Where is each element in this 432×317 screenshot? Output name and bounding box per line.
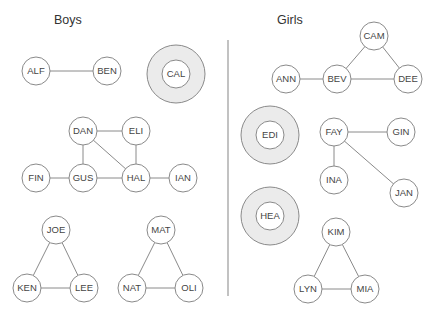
edges-layer	[27, 36, 408, 289]
node-label: FIN	[28, 172, 43, 183]
node-label: INA	[326, 174, 343, 185]
node-label: IAN	[175, 172, 191, 183]
node-label: CAM	[363, 30, 384, 41]
node-mat: MAT	[147, 216, 175, 244]
node-fay: FAY	[320, 118, 348, 146]
node-gin: GIN	[387, 118, 415, 146]
node-label: CAL	[167, 68, 185, 79]
node-label: DEE	[398, 73, 418, 84]
node-ina: INA	[320, 166, 348, 194]
node-label: LYN	[299, 283, 317, 294]
node-edi: EDI	[241, 106, 299, 164]
node-label: MAT	[151, 224, 171, 235]
node-label: MIA	[357, 283, 375, 294]
node-label: LEE	[75, 282, 93, 293]
node-cam: CAM	[360, 22, 388, 50]
node-eli: ELI	[122, 117, 150, 145]
node-label: KEN	[17, 282, 37, 293]
node-lyn: LYN	[294, 275, 322, 303]
node-kim: KIM	[322, 218, 350, 246]
node-ian: IAN	[169, 164, 197, 192]
node-label: ELI	[129, 125, 143, 136]
node-cal: CAL	[147, 45, 205, 103]
friendship-network-diagram: ALFBENCALDANELIFINGUSHALIANJOEKENLEEMATN…	[0, 0, 432, 317]
node-bev: BEV	[323, 65, 351, 93]
node-label: JAN	[395, 187, 413, 198]
node-hea: HEA	[241, 187, 299, 245]
node-lee: LEE	[70, 274, 98, 302]
node-label: BEN	[97, 65, 117, 76]
node-label: GIN	[393, 126, 410, 137]
node-label: ALF	[27, 65, 45, 76]
node-oli: OLI	[175, 274, 203, 302]
node-dee: DEE	[394, 65, 422, 93]
node-label: FAY	[325, 126, 343, 137]
node-joe: JOE	[42, 216, 70, 244]
node-mia: MIA	[351, 275, 379, 303]
node-label: BEV	[327, 73, 347, 84]
node-jan: JAN	[390, 179, 418, 207]
nodes-layer: ALFBENCALDANELIFINGUSHALIANJOEKENLEEMATN…	[13, 22, 422, 303]
node-fin: FIN	[22, 164, 50, 192]
node-label: KIM	[328, 226, 345, 237]
node-ann: ANN	[272, 65, 300, 93]
node-label: DAN	[73, 125, 93, 136]
node-alf: ALF	[22, 57, 50, 85]
node-label: GUS	[73, 172, 94, 183]
node-label: NAT	[123, 282, 141, 293]
node-label: EDI	[262, 129, 278, 140]
node-hal: HAL	[122, 164, 150, 192]
node-label: HAL	[127, 172, 145, 183]
node-gus: GUS	[69, 164, 97, 192]
node-dan: DAN	[69, 117, 97, 145]
node-label: ANN	[276, 73, 296, 84]
node-label: OLI	[181, 282, 196, 293]
node-label: JOE	[47, 224, 65, 235]
node-ben: BEN	[93, 57, 121, 85]
node-nat: NAT	[118, 274, 146, 302]
node-label: HEA	[260, 210, 280, 221]
node-ken: KEN	[13, 274, 41, 302]
